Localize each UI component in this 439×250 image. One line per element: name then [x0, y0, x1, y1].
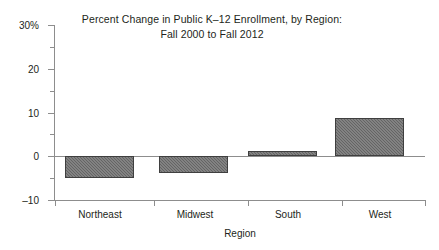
y-axis-tick-0: 0 — [48, 156, 55, 157]
plot-area: 30% 20 10 0 –10 Northeast Midwest So — [55, 25, 425, 200]
x-axis-tick-3 — [342, 200, 343, 206]
y-axis-tick-20: 20 — [48, 69, 55, 70]
y-axis-tick-10: 10 — [48, 113, 55, 114]
y-axis-tick-minus5 — [50, 178, 55, 179]
y-axis-tick-5 — [50, 134, 55, 135]
bar-south[interactable] — [248, 151, 317, 157]
x-axis-tick-2 — [248, 200, 249, 206]
x-axis-label-south: South — [275, 209, 301, 220]
y-axis-tick-30: 30% — [48, 25, 55, 26]
x-axis-title: Region — [55, 228, 425, 239]
x-axis-label-northeast: Northeast — [78, 209, 121, 220]
bar-midwest[interactable] — [159, 156, 228, 173]
y-axis-label-10: 10 — [28, 107, 39, 118]
y-axis-label-20: 20 — [28, 63, 39, 74]
chart-container: Percent Change in Public K–12 Enrollment… — [0, 0, 439, 250]
x-axis-line — [54, 200, 425, 201]
y-axis-tick-15 — [50, 91, 55, 92]
y-axis-tick-minus10: –10 — [48, 200, 55, 201]
x-axis-tick-4 — [425, 200, 426, 206]
bar-northeast[interactable] — [65, 156, 134, 178]
bar-west[interactable] — [335, 118, 404, 157]
x-axis-label-west: West — [369, 209, 392, 220]
y-axis-label-30: 30% — [19, 20, 39, 31]
y-axis-label-0: 0 — [33, 151, 39, 162]
x-axis-tick-0 — [55, 200, 56, 206]
y-axis-tick-25 — [50, 47, 55, 48]
y-axis-label-minus10: –10 — [22, 195, 39, 206]
x-axis-tick-1 — [154, 200, 155, 206]
x-axis-label-midwest: Midwest — [177, 209, 214, 220]
